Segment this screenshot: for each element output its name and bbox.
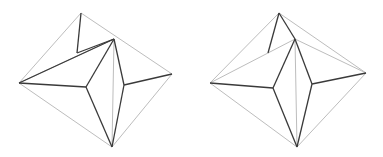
hidden-edge	[81, 13, 172, 74]
visible-edge	[279, 13, 295, 39]
visible-edge	[210, 83, 273, 88]
hidden-edge	[112, 39, 114, 147]
hidden-edge	[279, 13, 366, 73]
visible-edge	[114, 39, 124, 85]
hidden-edge	[210, 13, 279, 83]
visible-edge	[273, 39, 295, 88]
hidden-edge	[210, 39, 295, 83]
hidden-edge	[112, 74, 172, 147]
visible-edge	[297, 84, 312, 147]
visible-edge	[77, 13, 81, 53]
polyhedron-right	[210, 13, 366, 147]
visible-edge	[112, 85, 124, 147]
hidden-edge	[295, 39, 297, 147]
visible-edge	[19, 83, 86, 87]
diagram-canvas	[0, 0, 383, 157]
visible-edge	[19, 39, 114, 83]
polyhedron-left	[19, 13, 172, 147]
hidden-edge	[19, 13, 81, 83]
hidden-edge	[297, 73, 366, 147]
